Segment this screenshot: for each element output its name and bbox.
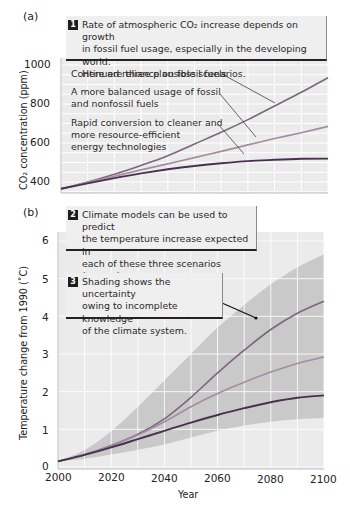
annotation-rapid-conversion: Rapid conversion to cleaner and more res… <box>71 117 223 153</box>
annotation-line: and nonfossil fuels <box>71 98 221 110</box>
y-tick-a-800: 800 <box>30 97 50 109</box>
callout-3-line-3: of the climate system. <box>82 325 218 337</box>
figure: (a) 1 Rate of atmospheric CO₂ increase d… <box>0 0 350 507</box>
panel-b-label: (b) <box>23 206 39 219</box>
x-tick-2020: 2020 <box>98 471 125 483</box>
annotation-line: more resource-efficient <box>71 129 223 141</box>
y-axis-label-b: Temperature change from 1990 (˚C) <box>18 266 29 440</box>
x-tick-2080: 2080 <box>257 473 284 485</box>
y-tick-b-2: 2 <box>42 386 49 398</box>
y-axis-label-a: CO₂ concentration (ppm) <box>18 70 29 190</box>
annotation-line: Continued reliance on fossil fuels <box>71 68 226 80</box>
x-tick-2060: 2060 <box>204 472 231 484</box>
annotation-line: A more balanced usage of fossil <box>71 86 221 98</box>
callout-number-1: 1 <box>68 20 78 30</box>
annotation-balanced-usage: A more balanced usage of fossil and nonf… <box>71 86 221 110</box>
y-tick-b-6: 6 <box>42 234 49 246</box>
callout-1-line-1: Rate of atmospheric CO₂ increase depends… <box>82 19 322 43</box>
callout-2-line-1: Climate models can be used to predict <box>82 209 252 233</box>
x-tick-2040: 2040 <box>151 472 178 484</box>
annotation-line: Rapid conversion to cleaner and <box>71 117 223 129</box>
callout-3: 3 Shading shows the uncertainty owing to… <box>66 273 223 319</box>
y-tick-a-1000: 1000 <box>24 58 51 70</box>
callout-3-line-2: owing to incomplete knowledge <box>82 300 218 324</box>
x-tick-2100: 2100 <box>310 473 337 485</box>
annotation-continued-reliance: Continued reliance on fossil fuels <box>71 68 226 80</box>
y-tick-b-4: 4 <box>42 311 49 323</box>
y-tick-a-400: 400 <box>30 175 50 187</box>
y-tick-b-3: 3 <box>42 348 49 360</box>
y-tick-b-5: 5 <box>42 273 49 285</box>
y-tick-a-600: 600 <box>30 136 50 148</box>
callout-number-3: 3 <box>68 277 78 287</box>
panel-a-label: (a) <box>23 10 38 23</box>
callout-2-line-2: the temperature increase expected in <box>82 233 252 257</box>
y-tick-b-1: 1 <box>42 424 49 436</box>
callout-1: 1 Rate of atmospheric CO₂ increase depen… <box>66 16 327 61</box>
callout-1-line-2: in fossil fuel usage, especially in the … <box>82 43 322 67</box>
x-axis-label: Year <box>178 489 198 500</box>
callout-3-line-1: Shading shows the uncertainty <box>82 276 218 300</box>
x-tick-2000: 2000 <box>45 471 72 483</box>
annotation-line: energy technologies <box>71 141 223 153</box>
callout-3-pointer-dot <box>254 316 257 319</box>
callout-number-2: 2 <box>68 210 78 220</box>
callout-2: 2 Climate models can be used to predict … <box>66 206 257 251</box>
